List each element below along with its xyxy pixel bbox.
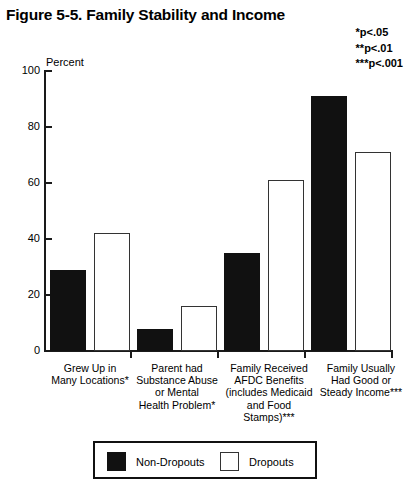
x-category-label-4: Family Usually Had Good or Steady Income… <box>312 362 410 399</box>
x-tick-sep-1 <box>130 351 132 358</box>
x-category-label-3-line-5: Stamps)*** <box>218 411 320 423</box>
x-axis-category-labels: Grew Up in Many Locations* Parent had Su… <box>0 362 411 440</box>
x-category-label-1-line-1: Grew Up in <box>38 362 142 374</box>
y-axis-unit-label: Percent <box>46 56 84 68</box>
bar-nondropouts-steady-income <box>311 96 347 351</box>
legend-item-non-dropouts: Non-Dropouts <box>107 452 204 471</box>
x-category-label-1-line-2: Many Locations* <box>38 374 142 386</box>
bar-nondropouts-afdc-benefits <box>224 253 260 351</box>
x-category-label-2-line-4: Health Problem* <box>128 399 226 411</box>
x-tick-sep-2 <box>217 351 219 358</box>
bar-dropouts-steady-income <box>355 152 391 351</box>
chart-plot-area: Percent 0 20 40 60 80 100 <box>0 0 411 440</box>
bar-dropouts-parent-substance-abuse <box>181 306 217 351</box>
bar-dropouts-grew-up-many-locations <box>94 233 130 351</box>
bar-dropouts-afdc-benefits <box>268 180 304 351</box>
chart-legend: Non-Dropouts Dropouts <box>93 441 317 479</box>
legend-label-non-dropouts: Non-Dropouts <box>136 456 204 468</box>
x-category-label-4-line-2: Had Good or <box>312 374 410 386</box>
x-category-label-3: Family Received AFDC Benefits (includes … <box>218 362 320 423</box>
x-category-label-2-line-3: or Mental <box>128 386 226 398</box>
bar-nondropouts-parent-substance-abuse <box>137 329 173 351</box>
x-category-label-3-line-3: (includes Medicaid <box>218 386 320 398</box>
x-category-label-2: Parent had Substance Abuse or Mental Hea… <box>128 362 226 411</box>
x-category-label-1: Grew Up in Many Locations* <box>38 362 142 386</box>
x-category-label-2-line-1: Parent had <box>128 362 226 374</box>
x-category-label-4-line-3: Steady Income*** <box>312 386 410 398</box>
x-tick-sep-4 <box>391 351 393 358</box>
x-category-label-3-line-4: and Food <box>218 399 320 411</box>
x-category-label-2-line-2: Substance Abuse <box>128 374 226 386</box>
x-tick-sep-3 <box>304 351 306 358</box>
legend-label-dropouts: Dropouts <box>249 456 294 468</box>
x-category-label-3-line-2: AFDC Benefits <box>218 374 320 386</box>
legend-swatch-hollow-icon <box>220 452 239 471</box>
bars-layer <box>0 71 411 351</box>
legend-item-dropouts: Dropouts <box>220 452 294 471</box>
legend-swatch-filled-icon <box>107 452 126 471</box>
x-category-label-3-line-1: Family Received <box>218 362 320 374</box>
x-category-label-4-line-1: Family Usually <box>312 362 410 374</box>
bar-nondropouts-grew-up-many-locations <box>50 270 86 351</box>
